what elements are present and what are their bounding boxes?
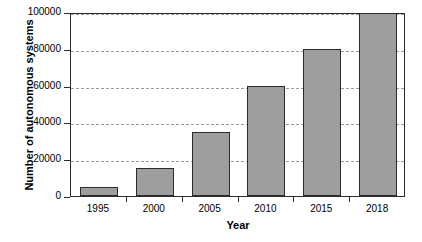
bar-chart: Number of autonomous systems 02000040000… <box>0 0 422 242</box>
x-tick-label: 2015 <box>296 203 346 214</box>
y-tick-label: 20000 <box>33 153 61 164</box>
y-tick-label: 0 <box>55 190 61 201</box>
y-tick-label: 80000 <box>33 43 61 54</box>
bars-group <box>71 14 404 196</box>
x-axis-ticks: 199520002005201020152018 <box>70 197 405 219</box>
y-tick-label: 100000 <box>28 6 61 17</box>
x-tick-mark <box>126 197 127 202</box>
x-axis-title: Year <box>70 219 406 231</box>
bar <box>359 13 397 196</box>
bar <box>303 49 341 196</box>
x-tick-mark <box>349 197 350 202</box>
bar <box>247 86 285 196</box>
plot-area <box>70 13 405 197</box>
x-tick-mark <box>182 197 183 202</box>
bar <box>192 132 230 196</box>
y-tick-label: 40000 <box>33 116 61 127</box>
bar <box>136 168 174 196</box>
x-tick-mark <box>238 197 239 202</box>
x-tick-label: 2010 <box>240 203 290 214</box>
x-tick-label: 2018 <box>352 203 402 214</box>
x-tick-mark <box>293 197 294 202</box>
y-tick-label: 60000 <box>33 80 61 91</box>
x-tick-label: 2005 <box>185 203 235 214</box>
x-tick-label: 2000 <box>129 203 179 214</box>
bar <box>80 187 118 196</box>
y-axis-ticks: 020000400006000080000100000 <box>0 13 70 197</box>
x-tick-label: 1995 <box>73 203 123 214</box>
